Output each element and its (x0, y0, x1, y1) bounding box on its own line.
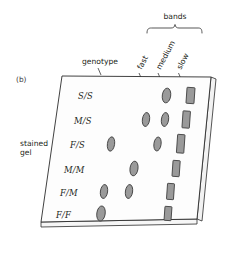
genotype-label: F/S (69, 140, 85, 150)
band-column-label-medium-text: medium (154, 39, 177, 71)
band-column-label-fast-text: fast (135, 54, 150, 71)
band-column-label-slow-text: slow (175, 52, 191, 71)
stained-gel-caption-line1: stained (20, 139, 48, 148)
genotype-header-text: genotype (82, 57, 118, 66)
band-spot-slow (164, 206, 172, 220)
panel-label: (b) (16, 75, 27, 84)
band-spot-slow (166, 183, 174, 199)
band-column-label-medium: medium (154, 39, 177, 80)
electrophoresis-gel-figure: bands fast medium slow genotype (b) stai… (0, 0, 230, 257)
gel-surface (41, 76, 211, 222)
band-spot-slow (172, 160, 180, 176)
genotype-label: F/M (59, 188, 78, 198)
genotype-label: M/M (63, 165, 85, 175)
genotype-header-tick (98, 68, 101, 75)
band-column-label-slow: slow (175, 52, 191, 80)
bands-brace (147, 25, 202, 34)
genotype-label: S/S (78, 91, 93, 101)
bands-header-label: bands (163, 12, 186, 21)
stained-gel-caption-line2: gel (20, 148, 32, 157)
band-spot-slow (182, 111, 191, 128)
genotype-label: F/F (55, 210, 72, 220)
genotype-header: genotype (82, 57, 118, 75)
gel-diagram-canvas: bands fast medium slow genotype (b) stai… (0, 0, 230, 257)
band-spot-slow (176, 134, 185, 153)
genotype-label: M/S (73, 116, 92, 126)
band-spot-slow (186, 87, 195, 104)
